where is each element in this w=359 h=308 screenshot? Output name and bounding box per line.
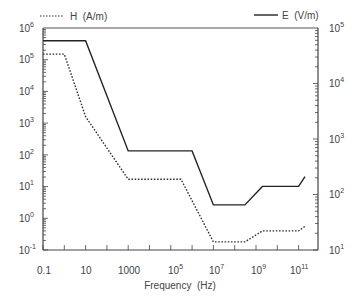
x-tick-label: 1011 [290, 263, 308, 276]
y-left-tick-label: 105 [19, 52, 34, 65]
y-right-tick-label: 104 [329, 76, 344, 89]
y-right-tick-label: 103 [329, 132, 344, 145]
legend-h-label: H (A/m) [70, 11, 107, 22]
x-axis-title: Frequency (Hz) [144, 280, 216, 291]
y-left-tick-label: 103 [19, 116, 34, 129]
x-tick-label: 107 [209, 263, 224, 276]
y-right-tick-label: 105 [329, 21, 344, 34]
field-strength-chart: H (A/m) E (V/m) 106 105 104 103 102 101 … [0, 0, 359, 308]
legend-e: E (V/m) [254, 10, 319, 21]
y-left-tick-label: 10-1 [19, 243, 36, 256]
y-left-tick-label: 106 [19, 21, 34, 34]
e-field-solid-line [43, 41, 305, 205]
bottom-axis-ticks [43, 245, 299, 250]
h-field-dotted-line [43, 54, 305, 242]
left-axis-ticks [43, 29, 48, 250]
right-axis-ticks [313, 31, 318, 250]
y-left-tick-label: 100 [19, 211, 34, 224]
x-axis-labels: 0.1 10 1000 105 107 109 1011 [37, 263, 308, 276]
x-tick-label: 10 [80, 265, 92, 276]
y-left-tick-label: 101 [19, 179, 34, 192]
x-tick-label: 0.1 [37, 265, 51, 276]
legend-h: H (A/m) [40, 11, 107, 22]
y-right-tick-label: 101 [329, 243, 344, 256]
y-right-tick-label: 102 [329, 187, 344, 200]
left-axis-labels: 106 105 104 103 102 101 100 10-1 [19, 21, 36, 256]
legend-e-label: E (V/m) [282, 10, 319, 21]
x-tick-label: 105 [168, 263, 183, 276]
y-left-tick-label: 102 [19, 148, 34, 161]
right-axis-labels: 105 104 103 102 101 [329, 21, 344, 256]
plot-frame [43, 28, 318, 250]
y-left-tick-label: 104 [19, 84, 34, 97]
x-tick-label: 1000 [118, 265, 141, 276]
x-tick-label: 109 [251, 263, 266, 276]
